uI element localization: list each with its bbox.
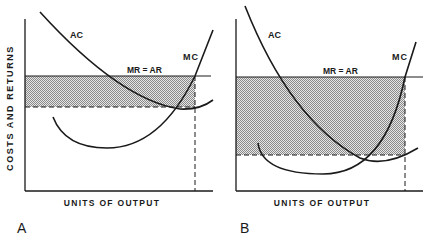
mr-ar-label-b: MR = AR: [323, 66, 358, 76]
panel-b: AC MC MR = AR UNITS OF OUTPUT B: [236, 6, 423, 236]
panel-a: AC MC MR = AR UNITS OF OUTPUT A: [17, 12, 213, 236]
x-axis-label-a: UNITS OF OUTPUT: [64, 198, 160, 208]
mc-label-b: MC: [392, 52, 408, 62]
y-axis-label: COSTS AND RETURNS: [5, 45, 15, 171]
panel-letter-b: B: [240, 220, 249, 236]
profit-area-a: [25, 76, 195, 107]
mc-label-a: MC: [183, 52, 199, 62]
x-axis-label-b: UNITS OF OUTPUT: [274, 198, 370, 208]
ac-label-a: AC: [70, 30, 83, 40]
panel-letter-a: A: [17, 220, 27, 236]
ac-label-b: AC: [268, 30, 281, 40]
cost-revenue-diagram: COSTS AND RETURNS AC MC MR = AR UNITS OF…: [0, 0, 426, 238]
mr-ar-label-a: MR = AR: [127, 65, 162, 75]
